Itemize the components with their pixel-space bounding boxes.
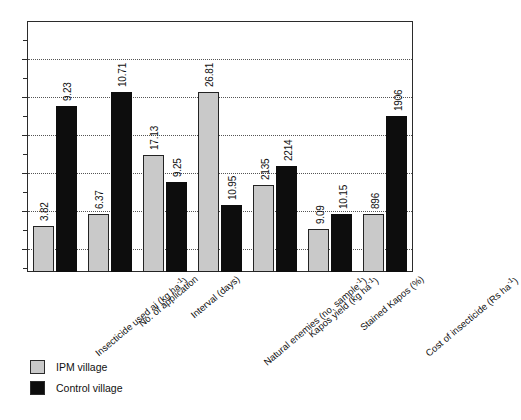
bar-value-label: 896 [370,193,380,209]
legend-item[interactable]: IPM village [30,360,123,374]
bar-value-label: 17.13 [150,126,160,150]
bar-control[interactable]: 2214 [276,166,297,272]
bar-value-label: 1906 [393,90,403,111]
bar-value-label: 9.25 [173,158,183,177]
chart-legend: IPM villageControl village [30,360,123,402]
bar-group: 17.139.25 [137,21,192,272]
legend-label: IPM village [56,361,107,373]
bar-group: 3.829.23 [27,21,82,272]
bar-group: 6.3710.71 [82,21,137,272]
legend-swatch [30,360,45,374]
bar-group: 8961906 [358,21,413,272]
legend-swatch [30,381,45,395]
bar-value-label: 10.95 [228,176,238,200]
x-axis-label: Cost of insecticide (Rs ha-1) [423,274,521,359]
bar-group: 26.8110.95 [192,21,247,272]
bar-control[interactable]: 9.23 [56,106,77,272]
legend-label: Control village [56,382,123,394]
bar-value-label: 26.81 [205,63,215,87]
bar-control[interactable]: 10.95 [221,205,242,272]
bar-value-label: 2214 [283,140,293,161]
bar-ipm[interactable]: 6.37 [88,214,109,272]
bar-value-label: 3.82 [40,202,50,221]
bar-ipm[interactable]: 17.13 [143,155,164,272]
x-axis-label: Kapos yield (kg ha-1) [306,274,381,340]
bar-ipm[interactable]: 896 [363,214,384,272]
bar-ipm[interactable]: 26.81 [198,92,219,272]
bar-ipm[interactable]: 3.82 [33,226,54,272]
bar-control[interactable]: 10.15 [331,214,352,272]
bar-group: 9.0910.15 [303,21,358,272]
bar-ipm[interactable]: 2135 [253,185,274,272]
bar-control[interactable]: 1906 [386,116,407,272]
bar-value-label: 6.37 [95,190,105,209]
bar-value-label: 10.71 [118,63,128,87]
bar-value-label: 10.15 [338,185,348,209]
bar-value-label: 9.09 [315,205,325,224]
bar-value-label: 2135 [260,159,270,180]
bar-group: 21352214 [248,21,303,272]
bar-control[interactable]: 9.25 [166,182,187,272]
bar-value-label: 9.23 [63,82,73,101]
bar-ipm[interactable]: 9.09 [308,229,329,272]
bar-series-container: 3.829.236.3710.7117.139.2526.8110.952135… [27,21,413,272]
bar-control[interactable]: 10.71 [111,92,132,272]
legend-item[interactable]: Control village [30,381,123,395]
